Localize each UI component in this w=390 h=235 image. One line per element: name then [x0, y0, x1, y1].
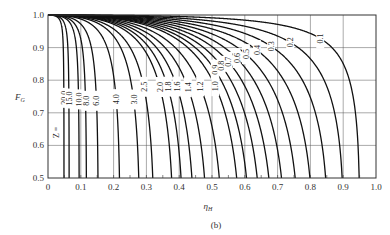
x-tick-label: 1.0 — [370, 182, 382, 192]
figure-caption: (b) — [211, 220, 222, 230]
y-tick-label: 1.0 — [33, 10, 45, 20]
curve-label: 0.5 — [242, 49, 251, 59]
x-tick-label: 0.2 — [108, 182, 119, 192]
x-tick-label: 0.3 — [141, 182, 153, 192]
curve-label: 1.2 — [196, 81, 205, 91]
y-axis-label: FG — [14, 92, 26, 103]
y-tick-label: 0.7 — [33, 108, 45, 118]
y-tick-label: 0.8 — [33, 75, 45, 85]
curve-label: 1.8 — [164, 82, 173, 92]
curve-label: 0.6 — [233, 53, 242, 63]
curve-label: 3.0 — [130, 95, 139, 105]
z-prefix-label: Z = — [52, 126, 61, 138]
x-tick-label: 0.5 — [206, 182, 218, 192]
y-tick-label: 0.6 — [33, 140, 45, 150]
y-tick-label: 0.5 — [33, 173, 45, 183]
x-tick-label: 0 — [46, 182, 51, 192]
x-tick-label: 0.1 — [75, 182, 86, 192]
curve-label: 2.5 — [140, 82, 149, 92]
x-tick-label: 0.4 — [174, 182, 186, 192]
curve-label: 4.0 — [112, 94, 121, 104]
curve-label: 0.2 — [286, 37, 295, 47]
curve-label: 15.0 — [65, 92, 74, 106]
curve-labels: 20.015.010.08.06.04.03.02.52.01.81.61.41… — [52, 28, 325, 138]
curve-label: 8.0 — [82, 96, 91, 106]
curve-label: 1.4 — [184, 82, 193, 92]
x-axis-label: ηH — [204, 201, 213, 212]
y-axis-ticks: 0.50.60.70.80.91.0 — [33, 10, 45, 183]
x-tick-label: 0.7 — [272, 182, 284, 192]
curve-label: 6.0 — [92, 96, 101, 106]
curve-label: 0.4 — [253, 45, 262, 55]
y-tick-label: 0.9 — [33, 43, 45, 53]
curve-label: 1.0 — [211, 81, 220, 91]
curve-label: 0.1 — [316, 33, 325, 43]
curve-label: 1.6 — [173, 81, 182, 91]
x-tick-label: 0.6 — [239, 182, 251, 192]
x-tick-label: 0.8 — [305, 182, 317, 192]
curve-label: 0.3 — [267, 41, 276, 51]
x-tick-label: 0.9 — [338, 182, 350, 192]
fg-correction-chart: 00.10.20.30.40.50.60.70.80.91.0 0.50.60.… — [0, 0, 390, 235]
